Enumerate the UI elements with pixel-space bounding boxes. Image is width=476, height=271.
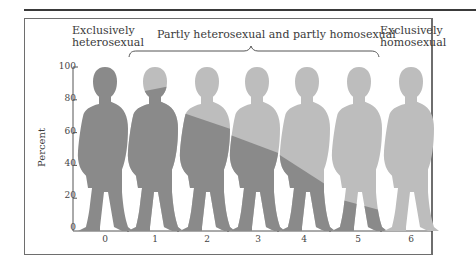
y-ticks bbox=[73, 67, 78, 198]
figure-6 bbox=[376, 60, 446, 235]
group-brace bbox=[129, 46, 379, 57]
figure-1 bbox=[120, 60, 190, 235]
figure-4 bbox=[272, 60, 342, 235]
chart-svg bbox=[0, 0, 476, 271]
figure-5 bbox=[324, 60, 394, 235]
